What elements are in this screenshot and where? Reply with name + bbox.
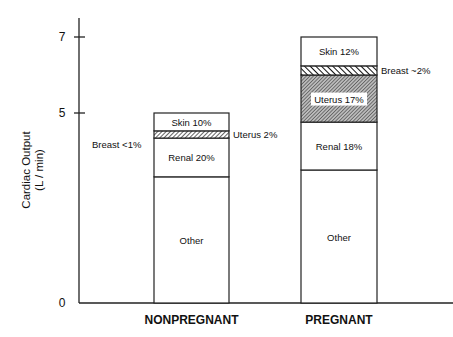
bar-pregnant: [301, 37, 377, 303]
segment-uterus: [154, 131, 229, 138]
bar-nonpregnant: [154, 113, 229, 303]
category-label-nonpregnant: NONPREGNANT: [144, 313, 239, 327]
cardiac-output-chart: 057 OtherRenal 20%Uterus 2%Breast <1%Ski…: [0, 0, 453, 337]
y-tick-label-5: 5: [59, 106, 66, 120]
segment-label-pregnant-uterus: Uterus 17%: [314, 94, 364, 105]
y-tick-label-0: 0: [59, 296, 66, 310]
segment-label-pregnant-skin: Skin 12%: [319, 46, 360, 57]
y-axis-unit-label: (L / min): [33, 149, 45, 191]
segment-label-pregnant-other: Other: [327, 232, 351, 243]
y-tick-label-7: 7: [59, 30, 66, 44]
segment-label-pregnant-renal: Renal 18%: [316, 141, 363, 152]
segment-label-nonpregnant-other: Other: [180, 235, 204, 246]
y-axis-label: Cardiac Output: [20, 131, 32, 209]
segment-breast: [301, 66, 377, 75]
segment-label-nonpregnant-uterus: Uterus 2%: [233, 129, 278, 140]
segment-label-nonpregnant-breast: Breast <1%: [92, 139, 142, 150]
segment-label-nonpregnant-renal: Renal 20%: [168, 152, 215, 163]
category-label-pregnant: PREGNANT: [305, 313, 373, 327]
segment-label-pregnant-breast: Breast ~2%: [381, 65, 431, 76]
segment-label-nonpregnant-skin: Skin 10%: [171, 117, 212, 128]
